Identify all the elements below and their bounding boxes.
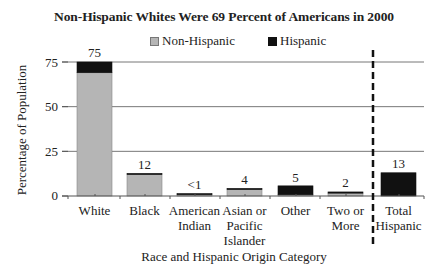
value-label: 5 [276, 170, 316, 186]
x-axis-label: Race and Hispanic Origin Category [0, 249, 448, 265]
value-label: 2 [326, 175, 366, 191]
bar-4-hispanic [278, 186, 313, 195]
value-label: 4 [225, 172, 265, 188]
value-label: <1 [175, 177, 215, 193]
bar-5-hispanic [328, 192, 363, 193]
value-label: 75 [75, 45, 115, 61]
bar-0-hispanic [77, 62, 112, 73]
bar-6-hispanic [381, 173, 416, 196]
bar-0-non-hispanic [77, 73, 112, 196]
bar-1-non-hispanic [127, 175, 162, 196]
x-category-label: TotalHispanic [364, 203, 434, 233]
value-label: 12 [125, 157, 165, 173]
bar-3-hispanic [227, 188, 262, 189]
value-label: 13 [379, 156, 419, 172]
bar-1-hispanic [127, 173, 162, 174]
